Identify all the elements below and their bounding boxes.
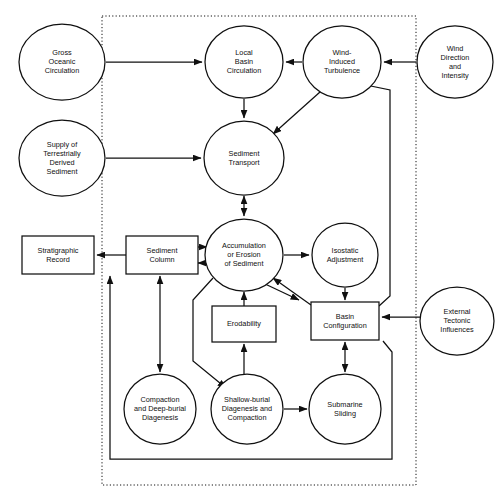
node-sediment_column[interactable]: SedimentColumn (126, 236, 198, 274)
node-external_tectonic_influences[interactable]: ExternalTectonicInfluences (420, 287, 494, 355)
edge-accumulation-to-basin-elbow (263, 283, 299, 300)
node-label: SedimentTransport (229, 148, 260, 166)
node-label: Accumulationor Erosionof Sediment (222, 241, 266, 268)
node-submarine_sliding[interactable]: SubmarineSliding (309, 374, 381, 444)
node-label: SedimentColumn (147, 245, 178, 263)
node-basin_configuration[interactable]: BasinConfiguration (311, 302, 379, 340)
node-shallow_burial_diagenesis[interactable]: Shallow-burialDiagenesis andCompaction (211, 374, 283, 444)
node-stratigraphic_record[interactable]: StratigraphicRecord (22, 236, 94, 274)
process-flow-diagram: GrossOceanicCirculationSupply ofTerrestr… (0, 0, 500, 495)
node-wind_induced_turbulence[interactable]: Wind-InducedTurbulence (303, 26, 381, 98)
edge-basin-to-accumulation (273, 278, 311, 305)
node-label: Erodability (227, 319, 261, 328)
node-erodability[interactable]: Erodability (212, 306, 276, 342)
node-local_basin_circulation[interactable]: LocalBasinCirculation (205, 26, 283, 98)
node-label: Shallow-burialDiagenesis andCompaction (222, 395, 272, 422)
node-supply_terrestrial_sediment[interactable]: Supply ofTerrestriallyDerivedSediment (19, 120, 105, 196)
node-layer: GrossOceanicCirculationSupply ofTerrestr… (19, 24, 494, 444)
edge-turbulence-to-transport (273, 92, 320, 134)
node-gross_oceanic_circulation[interactable]: GrossOceanicCirculation (19, 24, 105, 100)
node-sediment_transport[interactable]: SedimentTransport (204, 121, 284, 195)
node-accumulation_or_erosion[interactable]: Accumulationor Erosionof Sediment (205, 219, 283, 291)
node-label: IsostaticAdjustment (327, 245, 364, 263)
node-label: ExternalTectonicInfluences (440, 307, 474, 334)
node-wind_direction_intensity[interactable]: WindDirectionandIntensity (417, 26, 493, 98)
diagram-canvas: GrossOceanicCirculationSupply ofTerrestr… (0, 0, 500, 495)
node-isostatic_adjustment[interactable]: IsostaticAdjustment (312, 223, 378, 287)
node-compaction_deep_burial[interactable]: Compactionand Deep-burialDiagenesis (124, 374, 196, 444)
